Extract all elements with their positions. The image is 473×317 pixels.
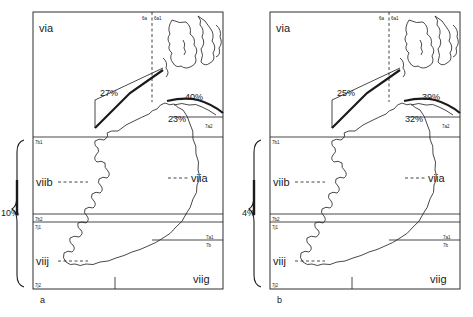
scotland-landmass <box>168 20 197 68</box>
area-label-viij: viij <box>36 255 49 267</box>
island-fragment-west <box>163 58 168 77</box>
percent-northeast: 40% <box>185 92 203 102</box>
boundary-heavy-northwest <box>95 70 163 128</box>
scotland-east-landmass <box>435 16 452 65</box>
area-label-via: via <box>276 22 291 34</box>
percent-east: 32% <box>405 114 423 124</box>
scotland-coast-fragment <box>453 25 458 57</box>
ireland-coastline <box>300 103 436 266</box>
ireland-coastline <box>63 103 199 266</box>
code-6a1: 6a1 <box>391 16 399 21</box>
panel-a-map: via viib viia viij viig 27% 40% 23% 10% … <box>0 0 236 317</box>
panel-b-caption: b <box>277 295 282 305</box>
scotland-landmass <box>405 20 434 68</box>
percent-northwest: 27% <box>100 88 118 98</box>
code-7j2: 7j2 <box>35 283 42 288</box>
code-7b-right: 7b <box>443 243 449 248</box>
code-7b1: 7b1 <box>272 140 280 145</box>
map-frame <box>270 12 460 289</box>
area-label-via: via <box>39 22 54 34</box>
code-7a2: 7a2 <box>442 124 450 129</box>
island-fragment-small <box>420 40 423 55</box>
area-label-viia: viia <box>428 172 445 184</box>
percent-northwest: 25% <box>337 88 355 98</box>
percent-northeast: 39% <box>422 92 440 102</box>
scotland-east-landmass <box>198 16 215 65</box>
code-6a: 6a <box>379 16 385 21</box>
code-7b2: 7b2 <box>272 217 280 222</box>
code-6a: 6a <box>142 16 148 21</box>
code-7b2: 7b2 <box>35 217 43 222</box>
code-6a1: 6a1 <box>154 16 162 21</box>
area-label-viib: viib <box>36 176 53 188</box>
area-label-viig: viig <box>430 273 447 285</box>
panel-b-map: via viib viia viij viig 25% 39% 32% 4% 6… <box>237 0 473 317</box>
panel-a-caption: a <box>40 295 45 305</box>
boundary-heavy-northwest <box>332 70 400 128</box>
map-frame <box>33 12 223 289</box>
code-7b-right: 7b <box>206 243 212 248</box>
code-7j1: 7j1 <box>35 225 42 230</box>
area-label-viia: viia <box>191 172 208 184</box>
area-label-viig: viig <box>193 273 210 285</box>
code-7j1: 7j1 <box>272 225 279 230</box>
panel-b: via viib viia viij viig 25% 39% 32% 4% 6… <box>237 0 473 317</box>
code-7a2: 7a2 <box>205 124 213 129</box>
percent-west-bracket: 10% <box>1 208 19 218</box>
percent-west-bracket: 4% <box>242 208 255 218</box>
area-label-viij: viij <box>273 255 286 267</box>
code-7b1: 7b1 <box>35 140 43 145</box>
code-7a1: 7a1 <box>443 235 451 240</box>
island-fragment-small <box>183 40 186 55</box>
code-7a1: 7a1 <box>206 235 214 240</box>
area-label-viib: viib <box>273 176 290 188</box>
code-7j2: 7j2 <box>272 283 279 288</box>
panel-a: via viib viia viij viig 27% 40% 23% 10% … <box>0 0 236 317</box>
island-fragment-west <box>400 58 405 77</box>
scotland-coast-fragment <box>216 25 221 57</box>
percent-east: 23% <box>168 114 186 124</box>
figure-container: via viib viia viij viig 27% 40% 23% 10% … <box>0 0 473 317</box>
